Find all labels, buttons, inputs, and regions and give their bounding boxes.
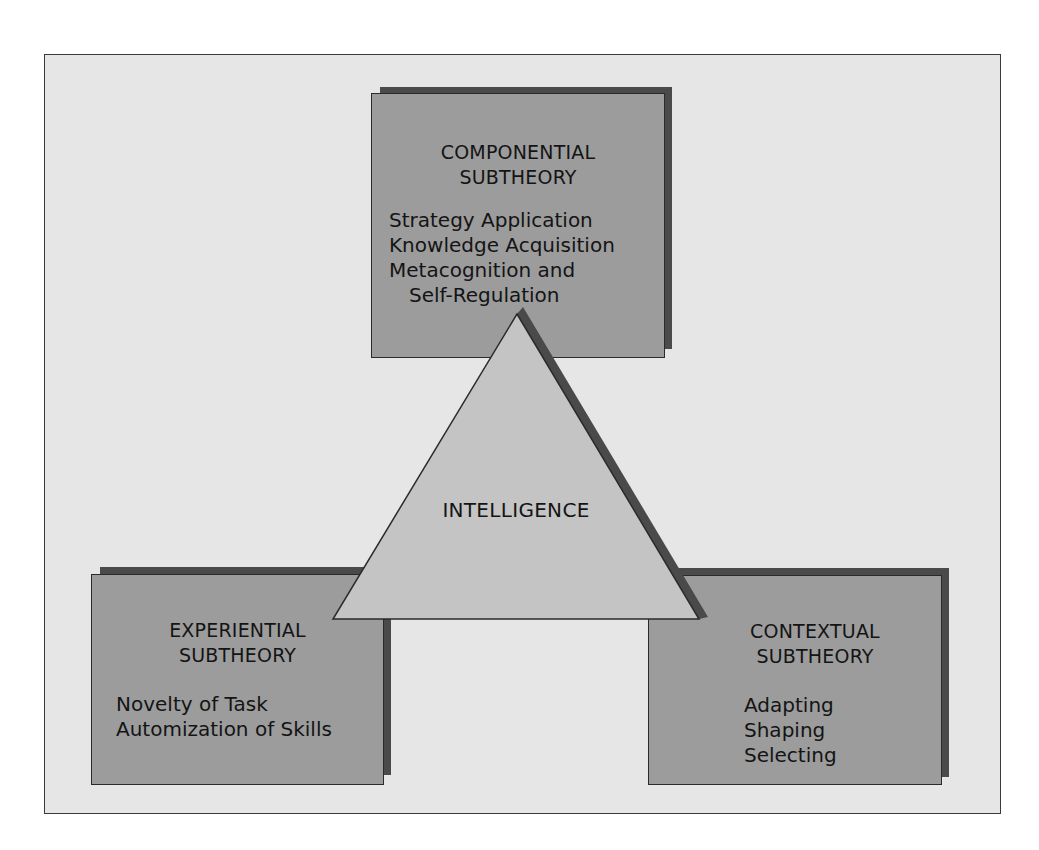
intelligence-label: INTELLIGENCE <box>418 497 614 523</box>
list-item: Automization of Skills <box>116 717 383 742</box>
experiential-title: EXPERIENTIAL SUBTHEORY <box>92 618 383 668</box>
list-item: Adapting <box>744 693 941 718</box>
list-item: Knowledge Acquisition <box>389 233 664 258</box>
list-item: Self-Regulation <box>389 283 664 308</box>
contextual-subtheory-box: CONTEXTUAL SUBTHEORY Adapting Shaping Se… <box>648 575 942 785</box>
list-item: Strategy Application <box>389 208 664 233</box>
title-line: SUBTHEORY <box>92 643 383 668</box>
title-line: SUBTHEORY <box>372 165 664 190</box>
experiential-items: Novelty of Task Automization of Skills <box>92 692 383 742</box>
componential-title: COMPONENTIAL SUBTHEORY <box>372 140 664 190</box>
contextual-items: Adapting Shaping Selecting <box>649 693 941 768</box>
componential-subtheory-box: COMPONENTIAL SUBTHEORY Strategy Applicat… <box>371 93 665 358</box>
componential-items: Strategy Application Knowledge Acquisiti… <box>372 208 664 308</box>
list-item: Novelty of Task <box>116 692 383 717</box>
list-item: Shaping <box>744 718 941 743</box>
title-line: SUBTHEORY <box>689 644 941 669</box>
list-item: Selecting <box>744 743 941 768</box>
title-line: CONTEXTUAL <box>689 619 941 644</box>
contextual-title: CONTEXTUAL SUBTHEORY <box>649 619 941 669</box>
experiential-subtheory-box: EXPERIENTIAL SUBTHEORY Novelty of Task A… <box>91 574 384 785</box>
title-line: EXPERIENTIAL <box>92 618 383 643</box>
title-line: COMPONENTIAL <box>372 140 664 165</box>
list-item: Metacognition and <box>389 258 664 283</box>
